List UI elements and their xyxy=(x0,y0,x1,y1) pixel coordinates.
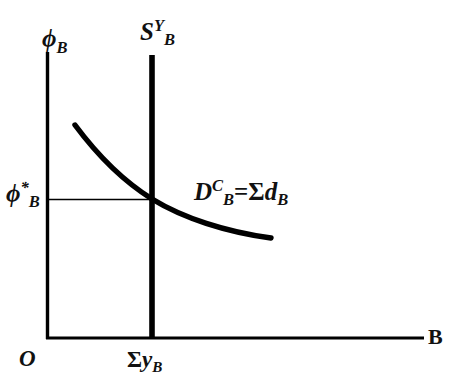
x-axis-title-text: B xyxy=(428,324,443,349)
y-axis-title-subscript: B xyxy=(56,38,67,57)
origin-label-text: O xyxy=(19,346,36,371)
demand-curve-label: DCB=ΣdB xyxy=(194,178,288,209)
demand-curve-sigma-icon: Σ xyxy=(248,178,264,205)
supply-curve-label-superscript: Y xyxy=(154,16,164,35)
equilibrium-price-label: ϕ*B xyxy=(6,180,40,211)
supply-curve-label-base: S xyxy=(140,18,154,45)
equilibrium-price-star: * xyxy=(20,178,28,197)
x-tick-subscript: B xyxy=(152,358,162,375)
x-tick-base: y xyxy=(142,347,152,372)
x-axis-tick-label: ΣyB xyxy=(127,348,162,374)
origin-label: O xyxy=(19,347,36,370)
demand-curve-rhs-subscript: B xyxy=(277,190,288,209)
y-axis-title: ϕB xyxy=(42,26,67,56)
x-axis-title: B xyxy=(428,326,443,348)
demand-curve-label-subscript: B xyxy=(223,190,234,209)
supply-demand-figure: ϕB SYB ϕ*B DCB=ΣdB O ΣyB B xyxy=(0,0,468,392)
x-tick-sigma-icon: Σ xyxy=(127,347,142,372)
supply-curve-label: SYB xyxy=(140,18,175,49)
y-axis-title-symbol: ϕ xyxy=(42,25,56,52)
equilibrium-price-symbol: ϕ xyxy=(6,180,20,207)
equilibrium-price-subscript: B xyxy=(29,192,40,211)
demand-curve-label-superscript: C xyxy=(212,176,223,195)
supply-curve-label-subscript: B xyxy=(164,30,175,49)
demand-curve-label-base: D xyxy=(194,178,212,205)
demand-curve-equals-sign: = xyxy=(234,178,248,205)
demand-curve-rhs-base: d xyxy=(265,178,278,205)
